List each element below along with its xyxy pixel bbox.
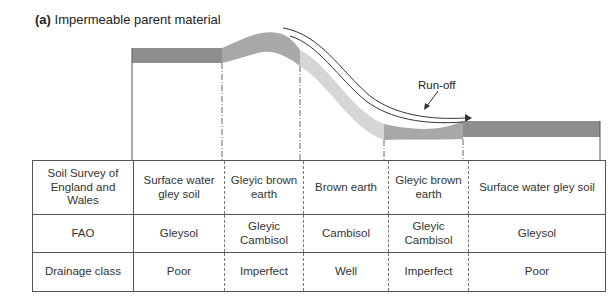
gley-band-left [132,48,222,63]
runoff-arrow [283,28,472,125]
table-cell: Gleyic Cambisol [389,215,469,253]
table-cell: Gleysol [134,215,225,253]
table-row: Soil Survey of England and Wales Surface… [33,161,606,215]
gley-band-right [463,121,600,137]
table-cell: Gleyic brown earth [225,161,304,215]
gleyic-band-lower [384,121,463,140]
table-row: FAO Gleysol Gleyic Cambisol Cambisol Gle… [33,215,606,253]
table-cell: Well [304,253,389,292]
gleyic-band-upper [222,32,300,66]
runoff-label: Run-off [418,79,456,91]
table-cell: Gleyic brown earth [389,161,469,215]
table-cell: Imperfect [225,253,304,292]
table-cell: Poor [134,253,225,292]
table-cell: Poor [469,253,606,292]
table-row: Drainage class Poor Imperfect Well Imper… [33,253,606,292]
table-cell: Cambisol [304,215,389,253]
light-soil-band [300,50,384,140]
table-cell: Brown earth [304,161,389,215]
row-header: FAO [33,215,134,253]
table-cell: Gleyic Cambisol [225,215,304,253]
row-header: Drainage class [33,253,134,292]
table-cell: Surface water gley soil [134,161,225,215]
table-cell: Gleysol [469,215,606,253]
table-cell: Surface water gley soil [469,161,606,215]
table-cell: Imperfect [389,253,469,292]
soil-classification-table: Soil Survey of England and Wales Surface… [32,160,606,292]
row-header: Soil Survey of England and Wales [33,161,134,215]
